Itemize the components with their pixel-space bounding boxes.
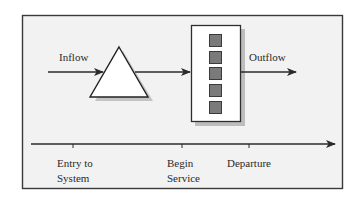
timeline-label-begin-service: Begin Service	[167, 157, 200, 185]
timeline-label-departure: Departure	[227, 157, 271, 170]
timeline-label-begin-line1: Begin	[167, 157, 200, 170]
server-units	[210, 35, 222, 114]
server-unit	[210, 85, 222, 97]
timeline-label-entry: Entry to System	[57, 157, 93, 185]
server-unit	[210, 35, 222, 47]
server-unit	[210, 52, 222, 64]
timeline-label-departure-line1: Departure	[227, 157, 271, 170]
timeline-label-begin-line2: Service	[167, 172, 200, 185]
server-unit	[210, 102, 222, 114]
inflow-label: Inflow	[59, 51, 88, 64]
timeline-label-entry-line2: System	[57, 172, 93, 185]
queueing-diagram: Inflow Outflow Entry to System Begin Ser…	[0, 0, 362, 205]
timeline-label-entry-line1: Entry to	[57, 157, 93, 170]
outflow-label: Outflow	[249, 51, 286, 64]
server-unit	[210, 68, 222, 80]
